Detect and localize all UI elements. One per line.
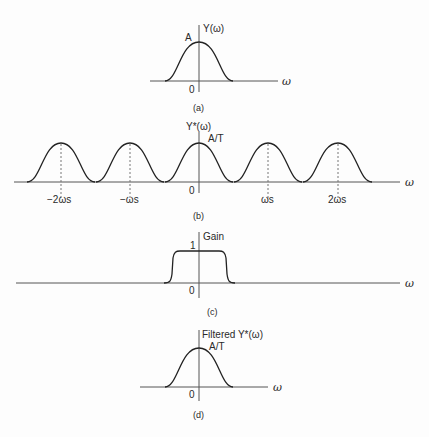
panel-b-tick-minus-ws: −ωs [120,194,139,205]
panel-a-caption: (a) [193,103,204,113]
panel-b-caption: (b) [193,211,204,221]
panel-d-caption: (d) [193,410,204,420]
panel-b-origin-label: 0 [189,185,195,196]
panel-d-peak-label: A/T [209,341,225,352]
panel-c: Gain 1 0 ω (c) [16,231,414,317]
diagram-canvas: Y(ω) A 0 ω (a) Y*(ω) A/T 0 ω −2ωs −ωs ωs… [0,0,429,437]
panel-d-y-label: Filtered Y*(ω) [202,329,263,340]
panel-c-level-label: 1 [190,240,196,251]
panel-c-origin-label: 0 [189,285,195,296]
panel-a-origin-label: 0 [189,84,195,95]
panel-d: Filtered Y*(ω) A/T 0 ω (d) [140,329,282,420]
panel-d-origin-label: 0 [189,389,195,400]
panel-b-peak-label: A/T [208,133,224,144]
panel-b-tick-minus-2ws: −2ωs [47,194,71,205]
panel-c-omega-label: ω [405,277,414,290]
panel-b-y-label: Y*(ω) [186,121,211,132]
panel-b-tick-2ws: 2ωs [328,194,346,205]
panel-a-y-label: Y(ω) [203,23,224,34]
panel-b-tick-ws: ωs [261,194,274,205]
panel-b: Y*(ω) A/T 0 ω −2ωs −ωs ωs 2ωs (b) [14,121,414,221]
panel-b-omega-label: ω [405,176,414,189]
panel-d-omega-label: ω [273,381,282,394]
panel-a: Y(ω) A 0 ω (a) [150,23,291,113]
panel-c-y-label: Gain [203,231,224,242]
sampling-spectrum-diagram: Y(ω) A 0 ω (a) Y*(ω) A/T 0 ω −2ωs −ωs ωs… [0,0,429,437]
panel-c-caption: (c) [207,307,218,317]
panel-a-peak-label: A [185,32,192,43]
panel-a-omega-label: ω [282,75,291,88]
